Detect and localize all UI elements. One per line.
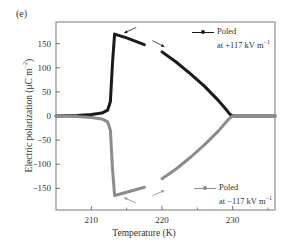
legend-marker-positive-icon [192,32,214,33]
y-tick-label: −100 [32,159,51,169]
y-tick-label: 0 [47,111,52,121]
legend-negative-exponent: −1 [266,195,272,201]
legend-negative: Poled at −117 kV m−1 [194,182,272,207]
series-negative-line [56,116,144,196]
legend-positive-title: Poled [217,26,236,36]
x-tick-label: 230 [226,215,240,225]
legend-positive-field: at +117 kV m [217,40,264,50]
x-tick-label: 210 [85,215,99,225]
y-axis-label-text: Electric polarization (μC m [24,68,34,172]
y-tick-label: 150 [38,39,52,49]
legend-positive: Poled at +117 kV m−1 [192,26,270,51]
legend-positive-exponent: −1 [264,39,270,45]
legend-negative-field: at −117 kV m [219,196,266,206]
x-tick-label: 220 [155,215,169,225]
legend-negative-title: Poled [219,182,238,192]
x-axis-label: Temperature (K) [0,228,288,238]
series-positive-line [56,34,144,116]
y-tick-label: −150 [32,183,51,193]
y-tick-label: −50 [37,135,52,145]
y-tick-label: 100 [38,63,52,73]
series-positive-line [162,52,275,116]
y-axis-label-exponent: −2 [22,62,28,68]
series-negative-line [162,116,275,179]
legend-marker-negative-icon [194,188,216,189]
y-tick-label: 50 [42,87,52,97]
y-axis-label: Electric polarization (μC m−2) [22,46,33,186]
y-axis-label-tail: ) [24,59,34,62]
